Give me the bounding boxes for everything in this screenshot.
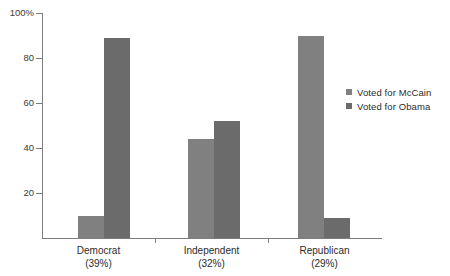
y-tick-label-80: 80	[0, 52, 34, 63]
x-category-democrat-name: Democrat	[77, 245, 120, 256]
legend-label-obama: Voted for Obama	[357, 101, 430, 112]
x-category-republican-pct: (29%)	[268, 258, 381, 271]
bar-independent-obama	[214, 121, 240, 238]
legend-swatch-mccain	[346, 89, 352, 95]
bar-republican-obama	[324, 218, 350, 238]
bar-chart: 100% 80 60 40 20 Democrat (39%) Independ…	[0, 0, 450, 276]
y-tick-label-20: 20	[0, 187, 34, 198]
x-category-democrat-pct: (39%)	[42, 258, 155, 271]
x-group-separator-2	[268, 238, 269, 243]
x-category-democrat: Democrat (39%)	[42, 245, 155, 270]
bar-independent-mccain	[188, 139, 214, 238]
y-tick-label-40: 40	[0, 142, 34, 153]
bar-democrat-obama	[104, 38, 130, 238]
legend-label-mccain: Voted for McCain	[357, 87, 431, 98]
x-category-independent: Independent (32%)	[155, 245, 268, 270]
legend-item-obama: Voted for Obama	[346, 100, 431, 112]
legend-item-mccain: Voted for McCain	[346, 86, 431, 98]
x-category-republican-name: Republican	[299, 245, 349, 256]
bar-republican-mccain	[298, 36, 324, 239]
x-group-separator-1	[155, 238, 156, 243]
x-category-republican: Republican (29%)	[268, 245, 381, 270]
bar-democrat-mccain	[78, 216, 104, 239]
x-category-independent-name: Independent	[184, 245, 240, 256]
y-tick-label-100: 100%	[0, 7, 34, 18]
chart-legend: Voted for McCain Voted for Obama	[346, 86, 431, 114]
x-category-independent-pct: (32%)	[155, 258, 268, 271]
x-axis-line	[42, 238, 382, 239]
y-tick-label-60: 60	[0, 97, 34, 108]
legend-swatch-obama	[346, 103, 352, 109]
bars-layer	[42, 13, 382, 238]
